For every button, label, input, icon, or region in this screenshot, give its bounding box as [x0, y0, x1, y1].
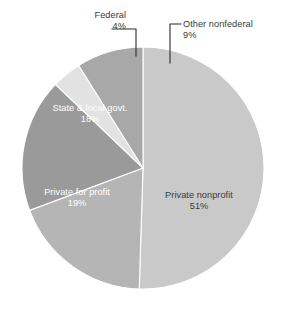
slice-label-private-nonprofit-name: Private nonprofit	[165, 190, 233, 200]
slice-label-other-nonfederal: Other nonfederal 9%	[183, 19, 281, 42]
pie-slices	[22, 47, 264, 289]
pie-chart: Federal 4% Other nonfederal 9% State & l…	[0, 0, 287, 313]
slice-label-private-for-profit-name: Private for profit	[44, 187, 110, 197]
slice-label-state-local-govt-name: State & local govt.	[52, 103, 127, 113]
slice-label-state-local-govt: State & local govt. 18%	[34, 103, 146, 126]
slice-label-other-nonfederal-value: 9%	[183, 30, 281, 41]
pie-slice-private-nonprofit	[139, 47, 264, 289]
slice-label-federal-name: Federal	[94, 10, 126, 20]
slice-label-private-nonprofit-value: 51%	[147, 201, 251, 212]
slice-label-private-for-profit-value: 19%	[25, 198, 129, 209]
footer-caption	[0, 300, 287, 313]
slice-label-private-for-profit: Private for profit 19%	[25, 187, 129, 210]
slice-label-private-nonprofit: Private nonprofit 51%	[147, 190, 251, 213]
slice-label-federal-value: 4%	[74, 21, 126, 32]
slice-label-state-local-govt-value: 18%	[34, 114, 146, 125]
slice-label-other-nonfederal-name: Other nonfederal	[183, 19, 253, 29]
slice-label-federal: Federal 4%	[74, 10, 126, 33]
pie-chart-svg	[0, 0, 287, 313]
